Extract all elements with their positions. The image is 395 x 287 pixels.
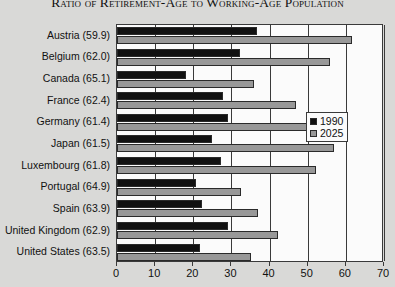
x-axis-tick: [307, 262, 308, 266]
bar-row: [117, 220, 382, 242]
y-axis-label: Portugal (64.9): [41, 180, 110, 192]
y-axis-label: Canada (65.1): [43, 72, 110, 84]
x-axis-tick: [116, 262, 117, 266]
x-axis-tick-label: 20: [186, 267, 198, 279]
chart-title: Ratio of Retirement-Age to Working-Age P…: [0, 0, 395, 11]
bar-2025: [117, 253, 251, 261]
y-axis-label: Luxembourg (61.8): [21, 159, 110, 171]
bar-1990: [117, 157, 221, 165]
x-axis-tick-label: 70: [377, 267, 389, 279]
bar-2025: [117, 58, 330, 66]
legend-swatch-2025-icon: [310, 130, 317, 137]
gridline: [384, 25, 385, 261]
bar-2025: [117, 209, 258, 217]
y-axis-label: Germany (61.4): [36, 115, 110, 127]
bar-2025: [117, 80, 254, 88]
legend-item[interactable]: 2025: [310, 127, 343, 139]
bar-rows: [117, 25, 382, 261]
bar-1990: [117, 71, 186, 79]
y-axis-label: Spain (63.9): [53, 202, 110, 214]
bar-2025: [117, 231, 278, 239]
legend-label-2025: 2025: [320, 127, 343, 139]
bar-1990: [117, 222, 228, 230]
x-axis-tick-label: 0: [113, 267, 119, 279]
legend: 1990 2025: [306, 112, 348, 142]
x-axis-tick: [269, 262, 270, 266]
x-axis-tick: [154, 262, 155, 266]
x-axis-tick-label: 60: [339, 267, 351, 279]
legend-label-1990: 1990: [320, 115, 343, 127]
bar-2025: [117, 166, 316, 174]
x-axis-tick-label: 30: [224, 267, 236, 279]
bar-1990: [117, 27, 257, 35]
y-axis-label: Japan (61.5): [51, 137, 110, 149]
bar-1990: [117, 92, 223, 100]
chart-container: Ratio of Retirement-Age to Working-Age P…: [0, 0, 395, 287]
legend-item[interactable]: 1990: [310, 115, 343, 127]
x-axis-tick-label: 50: [301, 267, 313, 279]
bar-row: [117, 68, 382, 90]
y-axis-label: Belgium (62.0): [42, 50, 110, 62]
x-axis-tick: [230, 262, 231, 266]
x-axis-tick: [192, 262, 193, 266]
y-axis-label: United Kingdom (62.9): [5, 224, 110, 236]
x-axis-tick-label: 10: [148, 267, 160, 279]
x-axis-tick: [345, 262, 346, 266]
x-axis-tick-label: 40: [262, 267, 274, 279]
bar-row: [117, 176, 382, 198]
bar-2025: [117, 188, 241, 196]
bar-2025: [117, 144, 334, 152]
bar-row: [117, 241, 382, 263]
bar-row: [117, 155, 382, 177]
y-axis-label: France (62.4): [47, 94, 110, 106]
bar-1990: [117, 114, 228, 122]
bar-2025: [117, 123, 323, 131]
y-axis-category-labels: Austria (59.9)Belgium (62.0)Canada (65.1…: [0, 24, 114, 262]
bar-1990: [117, 179, 196, 187]
x-axis-tick: [383, 262, 384, 266]
bar-1990: [117, 49, 240, 57]
bar-1990: [117, 200, 202, 208]
bar-1990: [117, 244, 200, 252]
bar-2025: [117, 36, 352, 44]
bar-2025: [117, 101, 296, 109]
y-axis-label: United States (63.5): [17, 245, 110, 257]
bar-row: [117, 47, 382, 69]
x-axis-ticks: 010203040506070: [116, 262, 384, 282]
legend-swatch-1990-icon: [310, 118, 317, 125]
bar-row: [117, 90, 382, 112]
plot-area: [116, 24, 383, 262]
bar-1990: [117, 135, 212, 143]
bar-row: [117, 198, 382, 220]
bar-row: [117, 25, 382, 47]
y-axis-label: Austria (59.9): [47, 29, 110, 41]
